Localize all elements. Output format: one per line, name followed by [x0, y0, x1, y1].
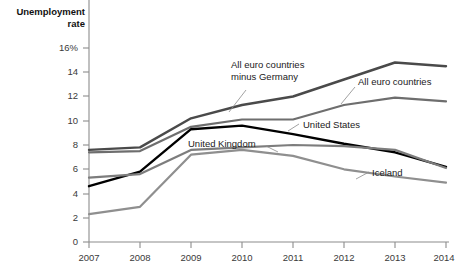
y-tick-label-2: 2 — [73, 212, 78, 223]
y-axis-title-line2: rate — [68, 18, 85, 29]
chart-svg: Unemployment rate 16% 14 12 10 8 6 4 2 0 — [0, 0, 472, 270]
series-label-united-states: United States — [303, 119, 360, 130]
series-label-euro-minus-germany-line1: All euro countries — [231, 59, 305, 70]
y-tick-label-10: 10 — [67, 115, 78, 126]
x-tick-label-2014: 2014 — [433, 252, 454, 263]
y-axis-ticks: 16% 14 12 10 8 6 4 2 0 — [59, 42, 89, 247]
annotation-leaders — [229, 87, 369, 179]
x-tick-label-2011: 2011 — [283, 252, 303, 263]
x-tick-label-2012: 2012 — [333, 252, 354, 263]
y-tick-label-0: 0 — [73, 236, 78, 247]
y-tick-label-14: 14 — [67, 66, 78, 77]
leader-united-states — [288, 124, 299, 131]
series-line-all-euro-countries — [89, 98, 446, 153]
x-axis-ticks: 2007 2008 2009 2010 2011 2012 2013 2014 — [78, 242, 454, 263]
x-tick-label-2010: 2010 — [231, 252, 252, 263]
series-line-iceland — [89, 150, 446, 214]
series-label-euro-minus-germany-line2: minus Germany — [231, 71, 298, 82]
series-label-all-euro: All euro countries — [358, 76, 432, 87]
y-tick-label-16: 16% — [59, 42, 79, 53]
series-label-united-kingdom: United Kingdom — [188, 138, 256, 149]
y-tick-label-8: 8 — [73, 139, 78, 150]
x-tick-label-2009: 2009 — [180, 252, 201, 263]
y-tick-label-6: 6 — [73, 163, 78, 174]
leader-all-euro — [341, 87, 355, 104]
y-axis-title-line1: Unemployment — [16, 6, 85, 17]
series-label-iceland: Iceland — [372, 167, 403, 178]
x-tick-label-2008: 2008 — [129, 252, 150, 263]
y-tick-label-12: 12 — [67, 90, 78, 101]
x-tick-label-2007: 2007 — [78, 252, 99, 263]
leader-euro-minus-germany — [229, 90, 246, 112]
leader-iceland — [356, 172, 369, 179]
unemployment-rate-chart: Unemployment rate 16% 14 12 10 8 6 4 2 0 — [0, 0, 472, 270]
x-tick-label-2013: 2013 — [384, 252, 405, 263]
y-tick-label-4: 4 — [73, 188, 78, 199]
